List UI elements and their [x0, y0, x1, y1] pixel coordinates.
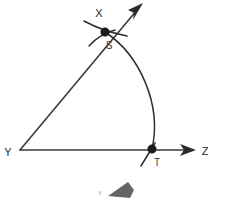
label-y: Y — [4, 146, 12, 158]
label-x: X — [95, 7, 103, 19]
ray-yx-line — [20, 10, 137, 150]
ray-yz-group — [20, 144, 196, 156]
label-s: S — [106, 40, 113, 51]
label-z: Z — [202, 145, 209, 157]
partial-bottom-label: V — [98, 190, 102, 196]
partial-bottom-figure-group: V — [98, 182, 134, 198]
partial-arrowhead-icon — [108, 182, 134, 198]
label-t: T — [154, 157, 160, 168]
construction-arc-s-to-t — [105, 32, 154, 149]
geometry-figure-canvas: X Y Z S T V — [0, 0, 225, 198]
point-dot-t — [148, 145, 157, 154]
ray-yx-group — [20, 3, 143, 150]
angle-construction-diagram: X Y Z S T V — [0, 0, 225, 198]
point-dot-s — [101, 28, 110, 37]
